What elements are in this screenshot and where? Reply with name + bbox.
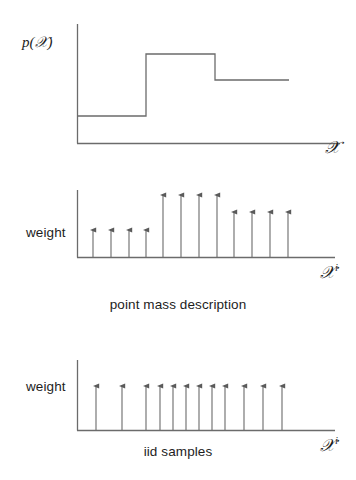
stem-group: [96, 386, 282, 430]
density-plot-svg: [0, 0, 356, 170]
probability-density-panel: p(𝒳) 𝒳: [0, 0, 356, 170]
iid-samples-panel: weight 𝒳i: [0, 330, 356, 480]
x-axis-label-density: 𝒳: [325, 138, 340, 158]
caption-iid-samples: iid samples: [0, 444, 356, 459]
y-axis-label-density: p(𝒳): [22, 34, 53, 51]
stem-group: [93, 195, 288, 257]
y-axis-label-pointmass: weight: [26, 225, 66, 240]
caption-point-mass-description: point mass description: [0, 297, 356, 312]
point-mass-panel: weight 𝒳i: [0, 170, 356, 330]
density-step-curve: [77, 54, 289, 116]
x-axis-label-pointmass: 𝒳i: [320, 262, 338, 283]
figure-container: p(𝒳) 𝒳 weight 𝒳i: [0, 0, 356, 480]
y-axis-label-iid: weight: [26, 379, 66, 394]
